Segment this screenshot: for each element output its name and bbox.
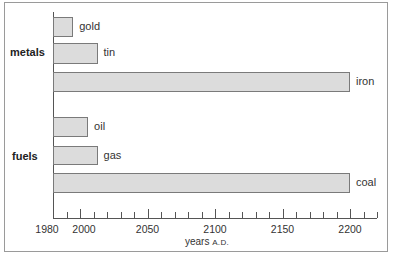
bar-label-coal: coal — [356, 176, 376, 188]
bar-label-tin: tin — [104, 46, 116, 58]
x-axis-title-main: years — [185, 236, 212, 247]
x-tick-2030 — [121, 212, 122, 218]
group-label-metals: metals — [10, 46, 45, 58]
x-tick-2050 — [148, 209, 149, 218]
x-tick-2010 — [94, 212, 95, 218]
x-axis-line — [53, 218, 377, 219]
x-tick-2150 — [283, 209, 284, 218]
x-tick-2160 — [296, 212, 297, 218]
x-tick-label-2050: 2050 — [136, 223, 159, 235]
bar-tin — [53, 43, 98, 64]
bar-oil — [53, 117, 88, 137]
x-tick-2020 — [107, 212, 108, 218]
x-tick-2220 — [377, 212, 378, 218]
x-tick-2040 — [134, 212, 135, 218]
x-tick-2000 — [80, 209, 81, 218]
bar-label-iron: iron — [356, 75, 374, 87]
x-tick-2200 — [350, 209, 351, 218]
x-tick-label-2100: 2100 — [203, 223, 226, 235]
x-axis-title-era: A.D. — [212, 238, 229, 247]
bar-label-oil: oil — [94, 120, 105, 132]
bar-label-gas: gas — [104, 149, 122, 161]
bar-gas — [53, 146, 98, 165]
x-tick-label-2200: 2200 — [338, 223, 361, 235]
x-tick-1990 — [67, 212, 68, 218]
x-tick-2090 — [202, 212, 203, 218]
depletion-bar-chart: metals fuels goldtinironoilgascoal 19802… — [0, 0, 393, 258]
x-tick-2070 — [175, 212, 176, 218]
bar-label-gold: gold — [79, 20, 100, 32]
x-tick-2170 — [310, 212, 311, 218]
x-tick-label-1980: 1980 — [35, 223, 58, 235]
x-axis-title: years A.D. — [185, 236, 229, 247]
bar-gold — [53, 17, 73, 37]
x-tick-label-2150: 2150 — [271, 223, 294, 235]
x-tick-2120 — [242, 212, 243, 218]
x-tick-2180 — [323, 212, 324, 218]
x-tick-2210 — [364, 212, 365, 218]
x-tick-2100 — [215, 209, 216, 218]
x-tick-label-2000: 2000 — [72, 223, 95, 235]
group-label-fuels: fuels — [12, 150, 38, 162]
x-tick-2130 — [256, 212, 257, 218]
x-tick-2140 — [269, 212, 270, 218]
x-tick-2060 — [161, 212, 162, 218]
bar-coal — [53, 173, 350, 193]
x-tick-2110 — [229, 212, 230, 218]
x-tick-2190 — [337, 212, 338, 218]
x-tick-2080 — [188, 212, 189, 218]
bar-iron — [53, 72, 350, 92]
